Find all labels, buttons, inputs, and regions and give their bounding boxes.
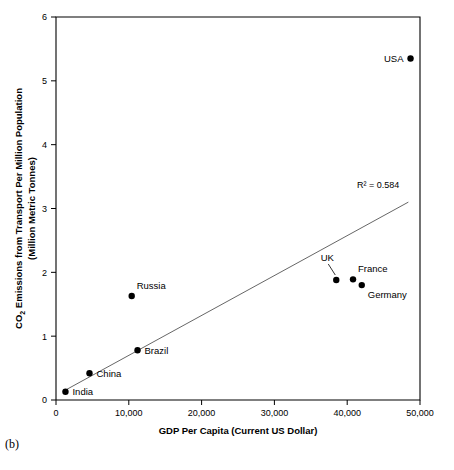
x-tick-label: 40,000 [333, 408, 361, 418]
y-axis-title-line2: (Million Metric Tonnes) [26, 157, 37, 260]
data-point-uk [333, 277, 339, 283]
plot-border [56, 17, 420, 400]
plot-frame [56, 17, 420, 400]
data-point-usa [407, 55, 413, 61]
x-tick-label: 20,000 [188, 408, 216, 418]
y-axis-title: CO2 Emissions from Transport Per Million… [13, 88, 37, 329]
y-axis-ticks: 0123456 [42, 12, 56, 405]
r-squared-annotation: R² = 0.584 [357, 180, 399, 190]
point-label-usa: USA [384, 53, 404, 64]
data-points [62, 55, 413, 395]
x-tick-label: 10,000 [115, 408, 143, 418]
y-tick-label: 3 [42, 204, 47, 214]
figure-caption: (b) [5, 437, 19, 452]
point-label-uk: UK [321, 252, 335, 263]
x-tick-label: 50,000 [406, 408, 434, 418]
scatter-plot-svg: 010,00020,00030,00040,00050,000 0123456 … [0, 0, 454, 470]
data-point-russia [129, 293, 135, 299]
data-point-france [350, 276, 356, 282]
y-tick-label: 1 [42, 332, 47, 342]
data-point-brazil [134, 347, 140, 353]
point-label-france: France [358, 263, 388, 274]
point-label-germany: Germany [368, 289, 407, 300]
data-point-china [86, 370, 92, 376]
leader-line-uk [328, 264, 335, 275]
x-axis-ticks: 010,00020,00030,00040,00050,000 [53, 400, 433, 418]
y-tick-label: 2 [42, 268, 47, 278]
point-label-india: India [72, 386, 93, 397]
x-axis-title: GDP Per Capita (Current US Dollar) [159, 425, 318, 436]
y-tick-label: 0 [42, 395, 47, 405]
y-axis-title-rest: Emissions from Transport Per Million Pop… [13, 88, 24, 311]
point-label-brazil: Brazil [145, 345, 169, 356]
point-label-russia: Russia [137, 280, 167, 291]
x-tick-label: 0 [53, 408, 58, 418]
r-squared-text: R² = 0.584 [357, 180, 399, 190]
trendline [63, 202, 409, 392]
y-axis-title-line1: CO2 Emissions from Transport Per Million… [13, 88, 26, 329]
point-label-china: China [96, 368, 122, 379]
data-point-germany [359, 282, 365, 288]
x-tick-label: 30,000 [261, 408, 289, 418]
trendline-segment [63, 202, 409, 392]
y-axis-title-co: CO [13, 315, 24, 329]
data-point-labels: IndiaChinaBrazilRussiaUKFranceGermanyUSA [72, 53, 407, 397]
x-axis-title-text: GDP Per Capita (Current US Dollar) [159, 425, 318, 436]
data-point-india [62, 389, 68, 395]
y-tick-label: 5 [42, 76, 47, 86]
y-tick-label: 6 [42, 12, 47, 22]
scatter-chart-figure: 010,00020,00030,00040,00050,000 0123456 … [0, 0, 454, 470]
y-tick-label: 4 [42, 140, 47, 150]
